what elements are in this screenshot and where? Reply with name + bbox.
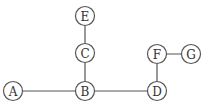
node-label: C	[80, 47, 89, 61]
node-label: B	[81, 85, 90, 99]
node-c: C	[76, 44, 95, 63]
node-label: G	[186, 48, 196, 62]
node-label: D	[152, 85, 162, 99]
graph-diagram: ECABDFG	[0, 0, 211, 107]
node-a: A	[4, 82, 23, 101]
node-label: F	[153, 48, 161, 62]
node-d: D	[148, 82, 167, 101]
node-label: E	[81, 10, 90, 24]
node-b: B	[76, 82, 95, 101]
node-label: A	[8, 85, 18, 99]
node-e: E	[76, 7, 95, 26]
node-f: F	[148, 45, 167, 64]
graph-svg: ECABDFG	[0, 0, 211, 107]
node-g: G	[182, 45, 201, 64]
